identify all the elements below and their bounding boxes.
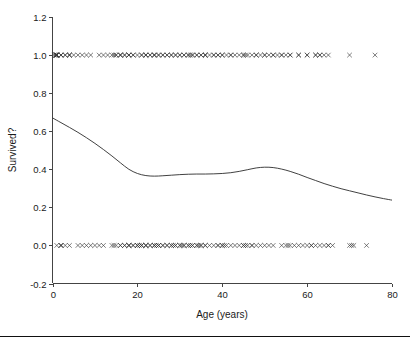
y-axis-title: Survived? — [7, 127, 18, 172]
y-tick-label: 1.2 — [33, 12, 46, 23]
x-tick-label: 40 — [217, 289, 228, 300]
x-tick-label: 20 — [132, 289, 143, 300]
y-tick-label: 0.8 — [33, 88, 46, 99]
chart-figure: -0.20.00.20.40.60.81.01.2 020406080 Age … — [0, 0, 410, 346]
y-tick-label: -0.2 — [30, 279, 46, 290]
y-tick-label: 0.6 — [33, 126, 46, 137]
y-tick-label: 0.4 — [33, 164, 46, 175]
x-tick-label: 60 — [302, 289, 313, 300]
x-tick-label: 80 — [387, 289, 398, 300]
y-tick-label: 1.0 — [33, 50, 46, 61]
x-axis-title: Age (years) — [196, 309, 248, 320]
survival-vs-age-chart: -0.20.00.20.40.60.81.01.2 020406080 Age … — [0, 0, 410, 346]
chart-background — [0, 0, 410, 346]
y-tick-label: 0.0 — [33, 240, 46, 251]
x-tick-label: 0 — [51, 289, 56, 300]
y-tick-label: 0.2 — [33, 202, 46, 213]
